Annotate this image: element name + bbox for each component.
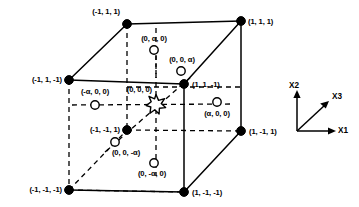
- edge-bottom-right-slant: [184, 131, 241, 192]
- cube-point-label-bottom-back-left: (-1, -1, 1): [90, 126, 120, 134]
- cube-point-label-top-front-right: (1, 1, -1): [192, 81, 220, 89]
- axis-arrow-x3-line: [297, 105, 325, 131]
- axis-label-x2: X2: [289, 82, 299, 90]
- vertex-top-front-left: [65, 76, 74, 85]
- axis-arrow-x1-head: [328, 127, 336, 134]
- cube-point-label-top-back-right: (1, 1, 1): [248, 18, 273, 26]
- center-point-star-marker: [146, 95, 165, 115]
- edge-bottom-back: [127, 130, 241, 131]
- axial-marker-x2-minus: [150, 159, 158, 167]
- cube-point-label-bottom-front-right: (1, -1, -1): [192, 189, 222, 197]
- vertex-bottom-back-left: [123, 126, 132, 135]
- edge-top-left-slant: [69, 24, 127, 80]
- axis-label-x1: X1: [338, 127, 348, 135]
- cube-point-label-bottom-front-left: (-1, -1, -1): [29, 186, 62, 194]
- vertex-top-back-right: [237, 17, 246, 26]
- vertex-top-back-left: [123, 20, 132, 29]
- edge-top-right-slant: [184, 21, 241, 84]
- star-icon: [146, 95, 165, 115]
- cube-point-label-top-back-left: (-1, 1, 1): [92, 8, 120, 16]
- cube-diagram: [0, 0, 359, 207]
- edge-top-back: [127, 21, 241, 24]
- axial-marker-x1-plus: [213, 98, 221, 106]
- axis-label-x3: X3: [332, 93, 342, 101]
- axial-point-label-x2-minus: (0, -α, 0): [138, 170, 166, 178]
- axial-point-label-x3-plus: (0, 0, α): [169, 56, 195, 64]
- vertex-bottom-front-right: [180, 188, 189, 197]
- center-point-label: (0, 0, 0): [127, 86, 152, 94]
- axial-marker-x2-plus: [150, 46, 158, 54]
- figure-canvas: (-1, 1, 1) (1, 1, 1) (-1, 1, -1) (1, 1, …: [0, 0, 359, 207]
- axial-point-label-x3-minus: (0, 0, -α): [112, 149, 140, 157]
- vertex-bottom-front-left: [65, 186, 74, 195]
- vertex-bottom-back-right: [237, 127, 246, 136]
- axial-point-label-x1-plus: (α, 0, 0): [204, 110, 230, 118]
- axial-point-label-x2-plus: (0, α, 0): [141, 35, 167, 43]
- vertex-top-front-right: [180, 80, 189, 89]
- cube-point-label-bottom-back-right: (1, -1, 1): [249, 128, 277, 136]
- cube-point-label-top-front-left: (-1, 1, -1): [32, 76, 62, 84]
- axis-legend-arrows: [293, 90, 336, 135]
- axial-marker-x3-minus: [111, 138, 119, 146]
- axial-marker-x1-minus: [91, 101, 99, 109]
- axial-point-label-x1-minus: (-α, 0, 0): [81, 88, 109, 96]
- axis-arrow-x2-head: [293, 90, 300, 98]
- axial-marker-x3-plus: [177, 67, 185, 75]
